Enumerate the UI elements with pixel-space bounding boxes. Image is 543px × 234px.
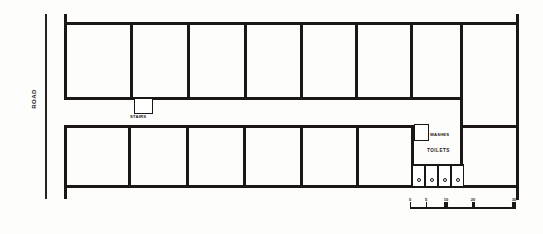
lower-partition-2 <box>186 127 189 187</box>
scale-tick-1 <box>426 202 427 208</box>
toilet-stall-2 <box>425 165 438 187</box>
floor-plan-drawing: ROAD STAIRS WASHES TOILETS <box>0 0 543 234</box>
upper-partition-4 <box>300 25 303 100</box>
lower-partition-4 <box>300 127 303 187</box>
wc-fixture-3 <box>443 178 447 182</box>
lower-annexe-label: WASHES <box>430 132 449 137</box>
scale-block-10 <box>444 202 448 207</box>
scale-num-2: 10 <box>444 197 448 202</box>
scale-num-3: 20 <box>471 197 475 202</box>
scale-bar: 0 5 10 20 30 <box>410 200 516 214</box>
toilet-stall-1 <box>412 165 425 187</box>
upper-block-bottom-wall <box>64 97 460 100</box>
scale-num-0: 0 <box>409 197 411 202</box>
upper-partition-3 <box>244 25 247 100</box>
scale-num-4: 30 <box>512 197 516 202</box>
upper-partition-1 <box>130 25 133 100</box>
road-label: ROAD <box>31 79 37 119</box>
upper-partition-5 <box>355 25 358 100</box>
right-wing-outer-wall <box>516 14 519 200</box>
scale-tick-0 <box>410 202 411 208</box>
upper-annexe-label: STAIRS <box>130 114 146 119</box>
upper-block-left-wall <box>64 14 67 100</box>
scale-num-1: 5 <box>425 197 427 202</box>
lower-partition-5 <box>356 127 359 187</box>
toilets-label: TOILETS <box>427 148 450 153</box>
toilet-stall-4 <box>451 165 464 187</box>
lower-annexe <box>414 124 429 141</box>
right-wing-bottom-wall <box>460 185 518 188</box>
scale-block-20 <box>472 202 475 207</box>
upper-annexe <box>134 98 153 114</box>
lower-partition-1 <box>128 127 131 187</box>
lower-block-top-wall <box>64 125 414 128</box>
toilet-stall-3 <box>438 165 451 187</box>
road-line <box>45 14 47 199</box>
right-wing-divider-wall <box>460 125 518 128</box>
scale-block-30 <box>512 202 516 207</box>
wc-fixture-4 <box>456 178 460 182</box>
lower-block-bottom-wall <box>64 185 464 188</box>
upper-partition-2 <box>187 25 190 100</box>
upper-partition-6 <box>410 25 413 100</box>
right-wing-top-wall <box>460 22 518 25</box>
upper-block-top-wall <box>64 22 460 25</box>
wc-fixture-1 <box>417 178 421 182</box>
lower-block-left-wall <box>64 125 67 199</box>
wc-fixture-2 <box>430 178 434 182</box>
lower-partition-3 <box>243 127 246 187</box>
